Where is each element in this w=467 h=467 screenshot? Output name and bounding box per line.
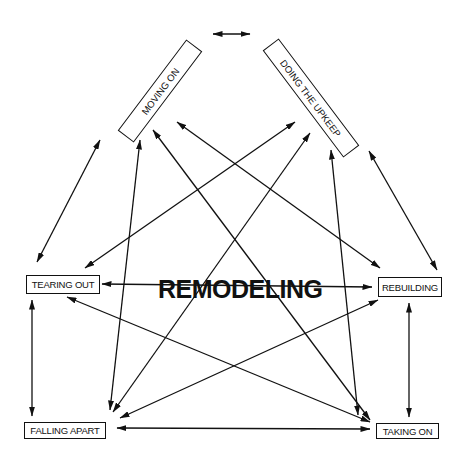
- node-label: FALLING APART: [30, 425, 99, 436]
- node-taking-on: TAKING ON: [376, 423, 439, 439]
- node-tearing-out: TEARING OUT: [26, 275, 100, 294]
- edge-doing-upkeep-taking-on: [331, 150, 358, 415]
- edge-doing-upkeep-tearing-out: [85, 122, 295, 268]
- node-label: TEARING OUT: [32, 279, 95, 290]
- node-label: TAKING ON: [383, 426, 433, 437]
- edge-moving-on-falling-apart: [110, 140, 140, 410]
- edge-falling-apart-taking-on: [117, 428, 370, 429]
- edge-moving-on-tearing-out: [37, 140, 100, 262]
- node-label: REBUILDING: [382, 282, 438, 293]
- edge-rebuilding-falling-apart: [120, 300, 378, 418]
- edge-doing-upkeep-rebuilding: [369, 151, 437, 270]
- node-rebuilding: REBUILDING: [378, 277, 442, 297]
- arrows-layer: [0, 0, 467, 467]
- node-falling-apart: FALLING APART: [24, 422, 106, 439]
- diagram-title: REMODELING: [158, 276, 322, 302]
- edge-doing-upkeep-falling-apart: [113, 133, 310, 412]
